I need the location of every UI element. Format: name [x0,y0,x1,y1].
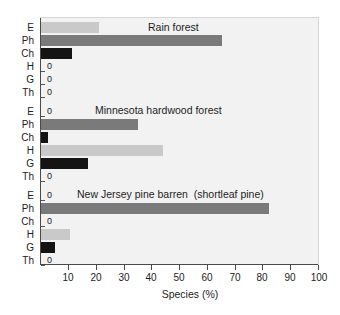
zero-stub-rain-forest-g [41,74,45,85]
x-axis-title-wrapper: Species (%) [0,288,340,300]
zero-stub-new-jersey-th [41,255,45,266]
x-tick-20 [96,265,97,270]
x-tick-label-80: 80 [247,272,277,284]
x-tick-label-60: 60 [192,272,222,284]
y-label-g2-g: G [4,158,34,169]
x-tick-30 [124,265,125,270]
bar-rain-forest-e [41,22,99,33]
x-tick-label-10: 10 [53,272,83,284]
x-tick-label-100: 100 [304,272,334,284]
y-label-g3-h: H [4,229,34,240]
zero-stub-new-jersey-ch [41,216,45,227]
x-tick-80 [262,265,263,270]
bar-minnesota-ch [41,132,48,143]
zero-stub-minnesota-th [41,171,45,182]
x-tick-label-70: 70 [220,272,250,284]
bar-rain-forest-ph [41,35,222,46]
y-label-g2-e: E [4,106,34,117]
y-label-g2-ph: Ph [4,119,34,130]
plot-top-border [40,17,319,18]
y-label-g3-ch: Ch [4,216,34,227]
x-tick-60 [207,265,208,270]
y-label-g1-ph: Ph [4,35,34,46]
y-label-g3-ph: Ph [4,203,34,214]
y-label-g3-g: G [4,242,34,253]
y-label-g1-e: E [4,22,34,33]
zero-stub-minnesota-e [41,106,45,117]
x-tick-70 [235,265,236,270]
bar-new-jersey-h [41,229,70,240]
x-tick-label-40: 40 [136,272,166,284]
y-label-g2-ch: Ch [4,132,34,143]
y-label-g3-e: E [4,190,34,201]
y-label-g2-h: H [4,145,34,156]
zero-value-minnesota-e: 0 [47,106,52,117]
group-title-new-jersey-pine-barren: New Jersey pine barren (shortleaf pine) [77,188,264,200]
x-tick-50 [179,265,180,270]
y-label-g1-th: Th [4,87,34,98]
zero-stub-new-jersey-e [41,190,45,201]
plot-right-border [318,17,319,265]
bar-minnesota-h [41,145,163,156]
bar-minnesota-ph [41,119,138,130]
y-label-g1-ch: Ch [4,48,34,59]
zero-stub-rain-forest-h [41,61,45,72]
zero-value-minnesota-th: 0 [47,171,52,182]
group-title-minnesota-hardwood-forest: Minnesota hardwood forest [95,104,222,116]
bar-minnesota-g [41,158,88,169]
x-tick-label-20: 20 [81,272,111,284]
species-percent-bar-chart: Rain forest E Ph Ch H 0 G 0 Th 0 Minneso… [0,0,340,315]
zero-value-new-jersey-th: 0 [47,255,52,266]
y-label-g1-h: H [4,61,34,72]
zero-value-new-jersey-e: 0 [47,190,52,201]
y-label-g2-th: Th [4,171,34,182]
zero-value-rain-forest-h: 0 [47,61,52,72]
zero-value-rain-forest-g: 0 [47,74,52,85]
x-tick-label-30: 30 [109,272,139,284]
group-title-rain-forest: Rain forest [148,21,199,33]
x-tick-90 [290,265,291,270]
zero-value-rain-forest-th: 0 [47,87,52,98]
zero-value-new-jersey-ch: 0 [47,216,52,227]
zero-stub-rain-forest-th [41,87,45,98]
bar-rain-forest-ch [41,48,72,59]
y-label-g1-g: G [4,74,34,85]
plot-area [40,17,319,265]
y-label-g3-th: Th [4,255,34,266]
x-tick-label-50: 50 [164,272,194,284]
bar-new-jersey-g [41,242,55,253]
x-axis-title: Species (%) [122,288,219,300]
x-tick-40 [151,265,152,270]
x-tick-label-90: 90 [275,272,305,284]
x-tick-10 [68,265,69,270]
x-tick-100 [318,265,319,270]
bar-new-jersey-ph [41,203,269,214]
